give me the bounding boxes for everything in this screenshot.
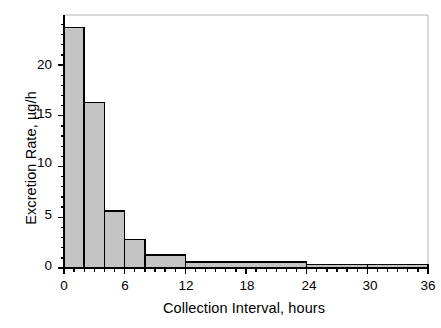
histogram-bars: [64, 27, 428, 268]
histogram-bar: [84, 103, 104, 268]
histogram-bar: [64, 27, 84, 268]
plot-area: [0, 0, 441, 328]
histogram-bar: [104, 211, 124, 268]
histogram-bar: [125, 240, 145, 268]
histogram-bar: [145, 255, 185, 268]
chart-figure: Excretion Rate, µg/h Collection Interval…: [0, 0, 441, 328]
